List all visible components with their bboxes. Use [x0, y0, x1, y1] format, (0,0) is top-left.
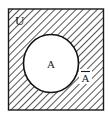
complement-label: A: [82, 72, 90, 84]
venn-diagram-canvas: U A A: [0, 0, 109, 116]
universal-set-label: U: [15, 13, 25, 28]
complement-label-group: A: [79, 69, 92, 84]
venn-diagram-figure: U A A: [0, 0, 109, 116]
set-a-label: A: [47, 58, 55, 70]
